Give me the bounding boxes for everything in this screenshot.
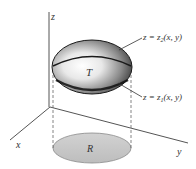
leader-top-surface: [119, 38, 142, 50]
z-axis-label: z: [50, 11, 55, 22]
solid-label: T: [86, 66, 93, 78]
x-axis-label: x: [15, 139, 21, 150]
region-label: R: [86, 143, 93, 154]
y-axis-label: y: [176, 146, 182, 157]
bottom-surface-equation: z = z1(x, y): [142, 92, 182, 103]
leader-bottom-surface: [118, 83, 142, 97]
top-surface-equation: z = z2(x, y): [142, 32, 182, 43]
x-axis: [10, 107, 50, 140]
diagram-canvas: z x y T R z = z2(x, y) z = z1(x, y): [0, 0, 196, 169]
